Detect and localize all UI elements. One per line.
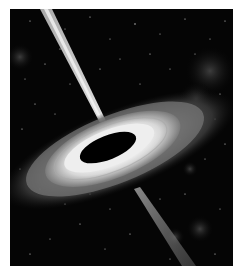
black-hole-illustration: Black hole with accretion disk and relat… xyxy=(10,9,233,266)
scene xyxy=(10,9,233,266)
nebula-glow xyxy=(182,161,198,177)
upper-jet-core xyxy=(44,9,103,122)
nebula-glow xyxy=(186,215,214,243)
accretion-disk xyxy=(10,66,233,234)
nebula-glow xyxy=(10,43,34,71)
